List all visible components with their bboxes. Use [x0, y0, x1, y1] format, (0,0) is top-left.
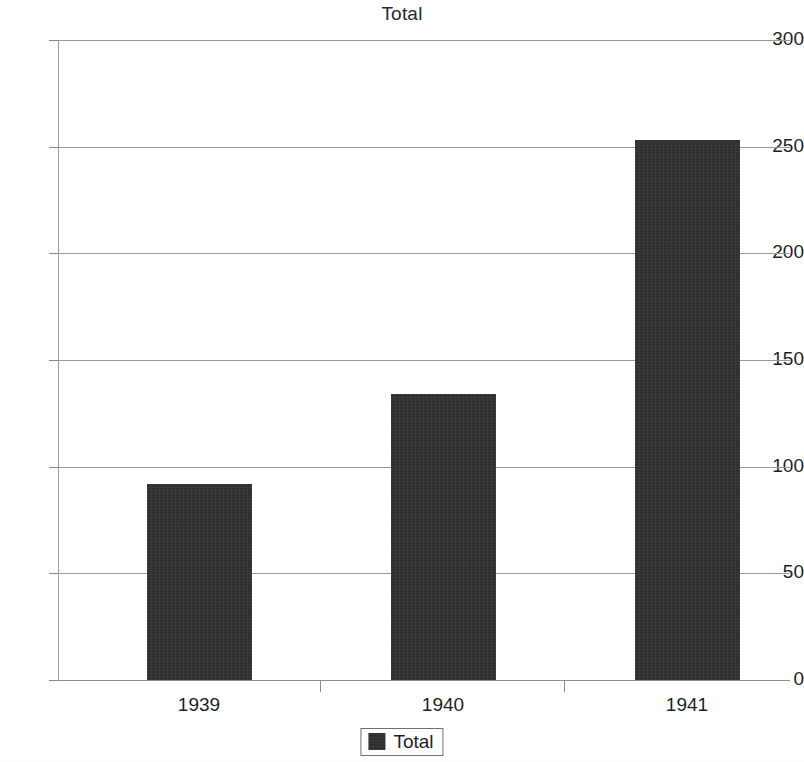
- x-axis-band-tick: [564, 681, 565, 692]
- legend-label-total: Total: [393, 732, 433, 751]
- gridline: [58, 40, 790, 41]
- y-axis-tick-mark: [49, 360, 58, 361]
- bar-1940: [391, 394, 496, 680]
- x-axis-band-tick: [320, 681, 321, 692]
- legend-swatch-total: [368, 733, 385, 750]
- chart-legend: Total: [360, 728, 443, 756]
- plot-area: [58, 40, 790, 680]
- x-axis-tick-label-1940: 1940: [321, 694, 565, 716]
- y-axis-tick-mark: [49, 147, 58, 148]
- x-axis-tick-label-1941: 1941: [565, 694, 804, 716]
- y-axis-tick-mark: [49, 467, 58, 468]
- y-axis-tick-mark: [49, 253, 58, 254]
- y-axis-tick-mark: [49, 680, 58, 681]
- bar-chart: Total 300250200150100500 193919401941 To…: [0, 0, 804, 762]
- y-axis-tick-mark: [49, 573, 58, 574]
- bar-1941: [635, 140, 740, 680]
- y-axis-tick-mark: [49, 40, 58, 41]
- bar-1939: [147, 484, 252, 680]
- x-axis-tick-label-1939: 1939: [77, 694, 321, 716]
- gridline: [58, 680, 790, 681]
- chart-title: Total: [0, 3, 804, 25]
